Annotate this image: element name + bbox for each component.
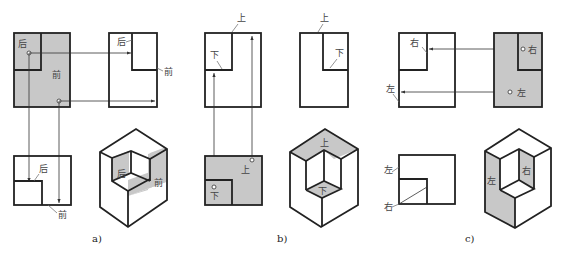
caption-c: c)	[465, 233, 475, 244]
label-front: 前	[154, 177, 163, 188]
label-top: 上	[241, 165, 250, 175]
panel-a-top-view: 后 前	[14, 156, 71, 220]
label-right: 右	[410, 37, 419, 48]
caption-a: a)	[92, 233, 102, 244]
point-marker	[250, 158, 254, 162]
panel-c-isometric-view: 左 右	[485, 129, 551, 228]
label-front: 前	[164, 66, 173, 77]
three-view-projection-diagram: 后 前 后 前 后 前	[0, 0, 563, 258]
panel-b-side-view: 上 下	[300, 13, 348, 107]
panel-c-front-view: 右 左	[386, 33, 455, 107]
label-back: 后	[117, 169, 126, 179]
label-back: 后	[117, 37, 126, 47]
label-front: 前	[52, 69, 61, 80]
panel-a-side-view: 后 前	[109, 33, 173, 107]
panel-b-isometric-view: 上 下	[290, 129, 358, 227]
label-top: 上	[320, 138, 329, 148]
label-left: 左	[517, 87, 526, 98]
panel-c: 右 左 右 左 左 右	[384, 33, 551, 244]
label-top: 上	[237, 13, 246, 23]
panel-c-side-view: 右 左	[494, 33, 542, 107]
label-right: 右	[384, 201, 393, 212]
label-bottom: 下	[318, 186, 327, 196]
panel-c-top-view: 左 右	[384, 155, 455, 212]
label-back: 后	[39, 164, 48, 174]
panel-a-front-view: 后 前	[14, 33, 70, 107]
panel-b-front-view: 下 上	[205, 13, 261, 107]
panel-a: 后 前 后 前 后 前	[14, 33, 173, 244]
label-back: 后	[18, 39, 27, 49]
point-marker	[508, 90, 512, 94]
point-marker	[212, 185, 216, 189]
label-right: 右	[528, 44, 537, 55]
label-front: 前	[58, 209, 67, 220]
label-bottom: 下	[210, 191, 219, 201]
label-left: 左	[386, 83, 395, 94]
caption-b: b)	[277, 233, 287, 244]
panel-a-isometric-view: 后 前	[100, 129, 167, 227]
panel-b-top-view: 上 下	[205, 156, 262, 205]
label-top: 上	[320, 13, 329, 23]
label-left: 左	[384, 164, 393, 175]
label-left: 左	[487, 175, 496, 186]
label-right: 右	[522, 165, 531, 176]
point-marker	[521, 47, 525, 51]
label-bottom: 下	[210, 50, 219, 60]
panel-b: 下 上 上 下 上 下	[205, 13, 358, 244]
label-bottom: 下	[335, 48, 344, 58]
